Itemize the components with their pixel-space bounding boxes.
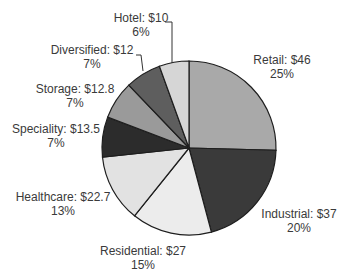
- slice-label-value: Storage: $12.8: [36, 82, 115, 96]
- slice-label-percent: 20%: [261, 221, 336, 235]
- pie-chart: Retail: $4625%Industrial: $3720%Resident…: [0, 0, 348, 279]
- slice-label-residential: Residential: $2715%: [100, 244, 186, 272]
- slice-label-value: Hotel: $10: [114, 11, 169, 25]
- slice-label-hotel: Hotel: $106%: [114, 11, 169, 39]
- slice-label-value: Diversified: $12: [51, 43, 134, 57]
- leader-line-diversified: [136, 55, 143, 71]
- slice-label-percent: 7%: [36, 96, 115, 110]
- slice-label-industrial: Industrial: $3720%: [261, 207, 336, 235]
- slice-label-value: Residential: $27: [100, 244, 186, 258]
- slice-label-percent: 7%: [51, 57, 134, 71]
- slice-label-retail: Retail: $4625%: [253, 53, 310, 81]
- slice-label-speciality: Speciality: $13.57%: [12, 122, 100, 150]
- slice-label-percent: 6%: [114, 25, 169, 39]
- slice-label-value: Speciality: $13.5: [12, 122, 100, 136]
- slice-label-percent: 15%: [100, 258, 186, 272]
- slice-label-value: Healthcare: $22.7: [16, 190, 111, 204]
- slice-label-value: Retail: $46: [253, 53, 310, 67]
- slice-label-value: Industrial: $37: [261, 207, 336, 221]
- slice-label-diversified: Diversified: $127%: [51, 43, 134, 71]
- slice-label-healthcare: Healthcare: $22.713%: [16, 190, 111, 218]
- slice-label-percent: 25%: [253, 67, 310, 81]
- slice-label-percent: 13%: [16, 204, 111, 218]
- slice-label-percent: 7%: [12, 136, 100, 150]
- slice-label-storage: Storage: $12.87%: [36, 82, 115, 110]
